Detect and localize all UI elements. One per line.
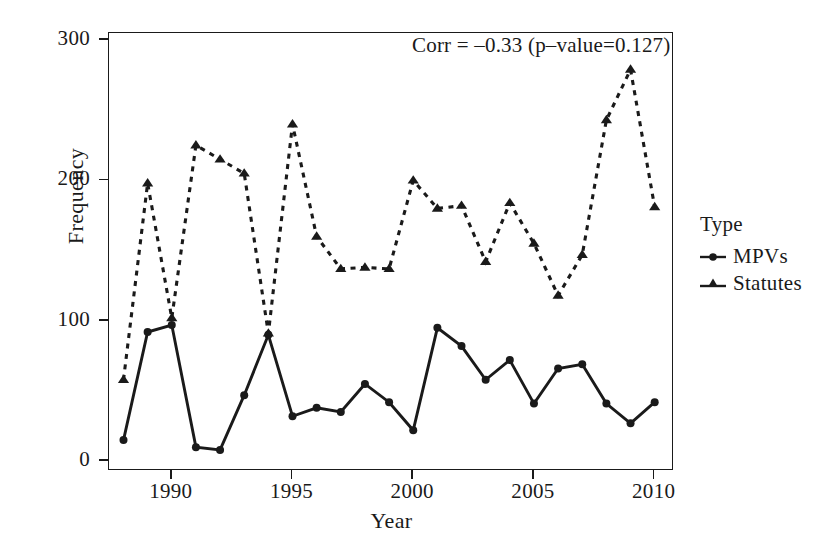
data-point <box>649 202 660 210</box>
data-point <box>480 257 491 265</box>
data-point <box>385 398 393 406</box>
x-tick-mark <box>653 470 655 479</box>
data-point <box>216 446 224 454</box>
x-tick-label: 1995 <box>257 479 327 504</box>
data-point <box>433 324 441 332</box>
data-point <box>506 356 514 364</box>
data-point <box>409 426 417 434</box>
data-point <box>289 412 297 420</box>
data-point <box>118 375 129 383</box>
data-point <box>287 119 298 127</box>
legend-item-statutes[interactable]: Statutes <box>700 270 835 297</box>
legend-title: Type <box>700 212 835 237</box>
x-tick-label: 2010 <box>619 479 689 504</box>
x-tick-mark <box>532 470 534 479</box>
x-tick-mark <box>170 470 172 479</box>
series-mpvs <box>119 321 658 454</box>
data-point <box>361 380 369 388</box>
y-tick-label: 100 <box>28 309 90 330</box>
y-tick-mark <box>99 319 108 321</box>
x-tick-label: 1990 <box>136 479 206 504</box>
series-line <box>123 325 654 450</box>
data-point <box>119 436 127 444</box>
data-point <box>482 376 490 384</box>
y-axis-title: Frequency <box>63 116 89 276</box>
data-point <box>578 360 586 368</box>
correlation-annotation: Corr = –0.33 (p–value=0.127) <box>412 33 671 58</box>
legend-item-mpvs[interactable]: MPVs <box>700 243 835 270</box>
data-point <box>408 175 419 183</box>
circle-marker-icon <box>700 248 726 266</box>
data-point <box>601 115 612 123</box>
x-tick-mark <box>291 470 293 479</box>
y-tick-label: 300 <box>28 28 90 49</box>
data-point <box>625 64 636 72</box>
x-tick-label: 2005 <box>498 479 568 504</box>
series-statutes <box>118 64 660 383</box>
data-point <box>168 321 176 329</box>
data-point <box>504 198 515 206</box>
y-tick-label: 0 <box>28 449 90 470</box>
triangle-marker-icon <box>700 275 726 293</box>
legend-label-mpvs: MPVs <box>733 244 788 269</box>
x-axis-title: Year <box>0 508 783 534</box>
data-point <box>602 400 610 408</box>
y-tick-mark <box>99 179 108 181</box>
data-point <box>577 250 588 258</box>
series-canvas <box>109 33 674 471</box>
data-point <box>337 408 345 416</box>
legend: Type MPVs Statutes <box>700 212 835 297</box>
data-point <box>144 328 152 336</box>
data-point <box>553 290 564 298</box>
data-point <box>214 154 225 162</box>
series-line <box>123 70 654 380</box>
y-tick-label: 200 <box>28 168 90 189</box>
data-point <box>311 231 322 239</box>
data-point <box>192 443 200 451</box>
data-point <box>240 391 248 399</box>
data-point <box>142 178 153 186</box>
data-point <box>313 404 321 412</box>
x-tick-label: 2000 <box>377 479 447 504</box>
y-tick-mark <box>99 459 108 461</box>
data-point <box>264 331 272 339</box>
data-point <box>458 342 466 350</box>
data-point <box>530 400 538 408</box>
data-point <box>190 140 201 148</box>
legend-label-statutes: Statutes <box>733 271 802 296</box>
data-point <box>456 200 467 208</box>
x-tick-mark <box>411 470 413 479</box>
y-tick-mark <box>99 38 108 40</box>
data-point <box>627 419 635 427</box>
data-point <box>166 313 177 321</box>
data-point <box>554 365 562 373</box>
plot-area <box>108 32 673 470</box>
chart-figure: Frequency 0100200300 1990199520002005201… <box>0 0 839 557</box>
data-point <box>651 398 659 406</box>
